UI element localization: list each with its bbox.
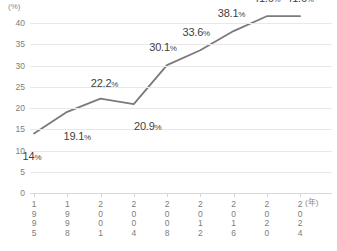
gridline-30 [30, 66, 332, 67]
gridline-35 [30, 44, 332, 45]
x-axis-tick-mark [34, 193, 35, 197]
y-axis-tick-label: 25 [16, 82, 25, 92]
y-axis-tick-label: 20 [16, 103, 25, 113]
y-axis-unit-label: (%) [8, 2, 20, 11]
data-point-label: 19.1% [63, 130, 91, 142]
data-point-label: 14% [23, 150, 42, 162]
y-axis-tick-label: 15 [16, 124, 25, 134]
x-axis-tick-mark [300, 193, 301, 197]
gridline-40 [30, 23, 332, 24]
gridline-10 [30, 151, 332, 152]
x-axis-tick-label: 1995 [28, 200, 40, 238]
x-axis-tick-label: 2004 [128, 200, 140, 238]
y-axis-tick-label: 35 [16, 39, 25, 49]
data-point-label: 22.2% [91, 77, 119, 89]
y-axis-tick-label: 5 [20, 167, 25, 177]
y-axis-tick-label: 40 [16, 18, 25, 28]
gridline-5 [30, 172, 332, 173]
x-axis-tick-mark [234, 193, 235, 197]
data-point-label: 20.9% [134, 120, 162, 132]
y-axis-tick-label: 0 [20, 188, 25, 198]
data-point-label: 30.1% [149, 41, 177, 53]
x-axis-tick-label: 2012 [194, 200, 206, 238]
x-axis-tick-label: 2016 [228, 200, 240, 238]
gridline-20 [30, 108, 332, 109]
data-point-label: 33.6% [182, 26, 210, 38]
gridline-25 [30, 87, 332, 88]
data-point-label: 41.6% [286, 0, 314, 4]
x-axis-unit-label: (年) [305, 196, 318, 207]
line-chart: (%) 051015202530354019951998200120042008… [0, 0, 337, 251]
gridline-0 [30, 193, 332, 194]
x-axis-tick-label: 2008 [161, 200, 173, 238]
data-point-label: 38.1% [218, 7, 246, 19]
x-axis-tick-label: 2020 [261, 200, 273, 238]
x-axis-tick-label: 1998 [61, 200, 73, 238]
x-axis-tick-mark [134, 193, 135, 197]
x-axis-tick-mark [101, 193, 102, 197]
y-axis-tick-label: 30 [16, 61, 25, 71]
x-axis-tick-mark [200, 193, 201, 197]
x-axis-tick-label: 2001 [95, 200, 107, 238]
x-axis-tick-mark [167, 193, 168, 197]
x-axis-tick-mark [67, 193, 68, 197]
x-axis-tick-mark [267, 193, 268, 197]
plot-area: 0510152025303540199519982001200420082012… [30, 23, 332, 193]
data-point-label: 41.6% [253, 0, 281, 4]
